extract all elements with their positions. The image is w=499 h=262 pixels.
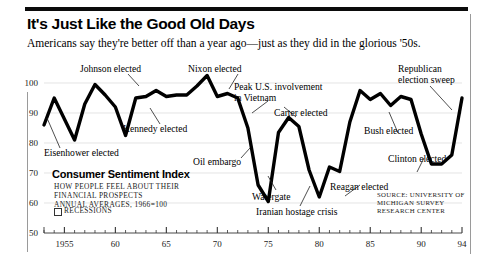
x-tick-85: 85	[355, 239, 385, 249]
annotation-vietnam: Peak U.S. involvementin Vietnam	[234, 82, 322, 103]
source-note: Source: University of Michigan Survey Re…	[377, 191, 469, 216]
x-tick-90: 90	[406, 239, 436, 249]
line-chart-plot	[0, 0, 499, 262]
y-tick-80: 80	[16, 138, 38, 148]
annotation-gop-line1: Republican	[398, 63, 442, 74]
x-axis-ticks	[44, 227, 462, 233]
y-tick-100: 100	[16, 78, 38, 88]
annotation-kennedy: Kennedy elected	[123, 124, 187, 135]
axis-line	[44, 227, 462, 233]
annotation-vietnam-line2: in Vietnam	[234, 92, 276, 103]
index-legend-desc-2: financial prospects	[54, 191, 143, 200]
annotation-iran-hostage: Iranian hostage crisis	[256, 207, 338, 218]
y-tick-50: 50	[16, 228, 38, 238]
annotation-carter: Carter elected	[274, 108, 328, 119]
index-legend-title: Consumer Sentiment Index	[52, 168, 190, 180]
x-tick-1955: 1955	[49, 239, 79, 249]
annotation-nixon: Nixon elected	[188, 64, 242, 75]
annotation-oil-embargo: Oil embargo	[193, 157, 241, 168]
annotation-eisenhower: Eisenhower elected	[44, 148, 119, 159]
recessions-label: Recessions	[64, 206, 112, 215]
annotation-vietnam-line1: Peak U.S. involvement	[234, 81, 322, 92]
x-tick-70: 70	[202, 239, 232, 249]
y-tick-60: 60	[16, 198, 38, 208]
recessions-swatch	[54, 208, 62, 216]
y-tick-70: 70	[16, 168, 38, 178]
chart-page: It's Just Like the Good Old Days America…	[0, 0, 499, 262]
annotation-bush: Bush elected	[364, 126, 413, 137]
annotation-clinton: Clinton elected	[388, 154, 446, 165]
x-tick-65: 65	[151, 239, 181, 249]
x-tick-75: 75	[253, 239, 283, 249]
annotation-johnson: Johnson elected	[80, 64, 141, 75]
x-tick-60: 60	[100, 239, 130, 249]
index-legend-desc-1: How people feel about their	[54, 182, 179, 191]
y-tick-90: 90	[16, 108, 38, 118]
x-tick-94: 94	[447, 239, 477, 249]
annotation-gop-line2: election sweep	[398, 74, 455, 85]
annotation-watergate: Watergate	[252, 192, 290, 203]
x-tick-80: 80	[304, 239, 334, 249]
annotation-gop-sweep: Republicanelection sweep	[398, 64, 455, 85]
